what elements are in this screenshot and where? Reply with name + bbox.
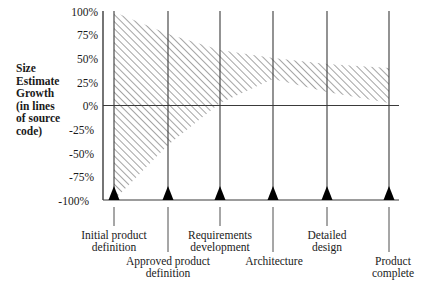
milestone-label-line-1: Product xyxy=(355,255,431,267)
y-tick-label-neg100: -100% xyxy=(45,196,89,208)
y-tick-label-neg50: -50% xyxy=(50,149,94,161)
milestone-label-product-complete: Product complete xyxy=(355,255,431,280)
milestone-label-line-2: definition xyxy=(62,241,166,253)
y-tick-label-75: 75% xyxy=(54,30,98,42)
y-tick-label-50: 50% xyxy=(54,54,98,66)
y-tick-label-neg75: -75% xyxy=(50,172,94,184)
milestone-marker-6 xyxy=(384,186,395,200)
milestone-label-line-1: Architecture xyxy=(230,255,318,267)
milestone-label-line-2: development xyxy=(163,241,277,253)
milestone-label-line-1: Approved product xyxy=(108,255,228,267)
milestone-label-line-2: definition xyxy=(108,267,228,279)
milestone-label-approved-product-definition: Approved product definition xyxy=(108,255,228,280)
y-tick-label-25: 25% xyxy=(54,78,98,90)
milestone-marker-5 xyxy=(322,186,333,200)
milestone-label-line-2: complete xyxy=(355,267,431,279)
milestone-label-initial-product-definition: Initial product definition xyxy=(62,229,166,254)
y-tick-label-neg25: -25% xyxy=(50,125,94,137)
milestone-markers xyxy=(109,186,395,200)
milestone-label-detailed-design: Detailed design xyxy=(290,229,364,254)
y-tick-label-100: 100% xyxy=(54,7,98,19)
y-tick-label-0: 0% xyxy=(54,101,98,113)
milestone-marker-4 xyxy=(268,186,279,200)
milestone-label-line-1: Detailed xyxy=(290,229,364,241)
milestone-marker-3 xyxy=(215,186,226,200)
milestone-label-line-1: Requirements xyxy=(163,229,277,241)
milestone-label-requirements-development: Requirements development xyxy=(163,229,277,254)
milestone-label-line-2: design xyxy=(290,241,364,253)
milestone-label-architecture: Architecture xyxy=(230,255,318,267)
milestone-marker-2 xyxy=(163,186,174,200)
milestone-label-line-1: Initial product xyxy=(62,229,166,241)
